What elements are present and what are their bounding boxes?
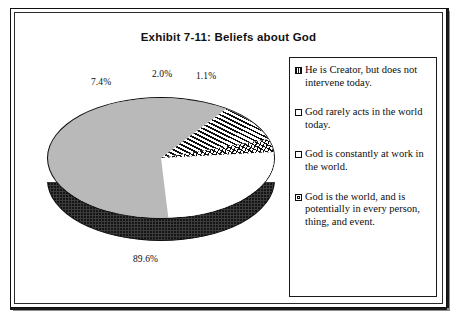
data-label-constantly-at-work: 1.1% <box>196 71 216 81</box>
legend-swatch-empty-square-icon <box>295 109 302 116</box>
legend-item-god-is-the-world[interactable]: God is the world, and is potentially in … <box>295 191 432 229</box>
pie-chart-plot-area: 7.4% 2.0% 1.1% 89.6% <box>33 55 283 305</box>
pie-top-face <box>47 97 275 219</box>
legend-item-constantly-at-work[interactable]: God is constantly at work in the world. <box>295 148 432 173</box>
legend-swatch-vertical-stripes-icon <box>295 67 302 74</box>
chart-legend: He is Creator, but does not intervene to… <box>289 57 437 297</box>
legend-label: He is Creator, but does not intervene to… <box>305 64 432 89</box>
pie-graphic <box>47 97 275 257</box>
data-label-rarely-acts: 2.0% <box>152 69 172 79</box>
legend-label: God is the world, and is potentially in … <box>305 191 432 229</box>
chart-title: Exhibit 7-11: Beliefs about God <box>11 31 446 43</box>
legend-item-rarely-acts[interactable]: God rarely acts in the world today. <box>295 106 432 131</box>
data-label-creator-no-intervene: 7.4% <box>91 77 111 87</box>
figure-frame: Exhibit 7-11: Beliefs about God 7.4% 2.0… <box>10 8 447 308</box>
legend-label: God is constantly at work in the world. <box>305 148 432 173</box>
legend-item-creator-no-intervene[interactable]: He is Creator, but does not intervene to… <box>295 64 432 89</box>
pie-slice-constantly-at-work <box>161 152 275 218</box>
legend-swatch-empty-square-icon <box>295 151 302 158</box>
legend-swatch-filled-center-square-icon <box>295 194 302 201</box>
legend-label: God rarely acts in the world today. <box>305 106 432 131</box>
